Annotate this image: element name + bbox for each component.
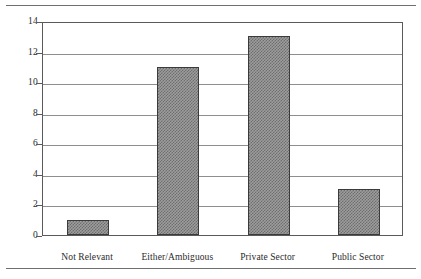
y-axis-tick-label: 2	[2, 200, 38, 210]
x-axis-labels: Not RelevantEither/AmbiguousPrivate Sect…	[42, 252, 403, 268]
y-axis-labels: 02468101214	[0, 0, 38, 279]
bar-series	[43, 23, 402, 235]
y-axis-tick-label: 12	[2, 48, 38, 58]
x-axis-tick-label: Public Sector	[313, 252, 403, 263]
page-rule-top	[6, 5, 416, 6]
page-rule-bottom	[6, 268, 416, 269]
y-axis-tick-label: 4	[2, 170, 38, 180]
bar	[338, 189, 380, 235]
bar	[157, 67, 199, 235]
bar	[248, 36, 290, 235]
y-axis-tick-label: 0	[2, 231, 38, 241]
bar	[67, 220, 109, 235]
y-axis-tick	[36, 236, 42, 237]
bar-chart-figure: 02468101214 Not RelevantEither/Ambiguous…	[0, 0, 421, 279]
x-axis-tick-label: Private Sector	[223, 252, 313, 263]
y-axis-tick-label: 8	[2, 109, 38, 119]
y-axis-tick-label: 10	[2, 78, 38, 88]
x-axis-tick-label: Not Relevant	[42, 252, 132, 263]
plot-area	[42, 22, 403, 236]
x-axis-tick-label: Either/Ambiguous	[132, 252, 222, 263]
y-axis-tick-label: 14	[2, 17, 38, 27]
y-axis-tick-label: 6	[2, 139, 38, 149]
